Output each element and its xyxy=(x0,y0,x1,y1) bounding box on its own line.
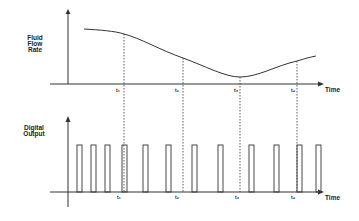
pulse xyxy=(91,145,96,192)
pulse xyxy=(274,145,279,192)
bottom-marker-t1: t₁ xyxy=(117,194,121,200)
top-marker-t2: t₂ xyxy=(175,87,179,93)
top-marker-t1: t₁ xyxy=(116,87,120,93)
bottom-y-axis-arrow-icon xyxy=(66,116,71,122)
top-y-axis-arrow-icon xyxy=(66,9,71,14)
top-panel: Fluid Flow Rate Time t₁ t₂ t₃ t₄ xyxy=(27,9,340,93)
time-marker-lines xyxy=(124,34,297,192)
pulse xyxy=(77,145,82,192)
pulse xyxy=(122,145,127,192)
bottom-panel: Digital Output Time t₁ t₂ t₃ t₄ xyxy=(23,116,340,207)
bottom-marker-t2: t₂ xyxy=(175,194,179,200)
pulse xyxy=(166,145,171,192)
top-y-label-line-3: Rate xyxy=(28,46,42,53)
bottom-marker-t3: t₃ xyxy=(235,194,240,200)
flow-rate-curve xyxy=(84,29,316,77)
flow-vs-digital-output-diagram: Fluid Flow Rate Time t₁ t₂ t₃ t₄ xyxy=(0,0,359,221)
top-x-axis-arrow-icon xyxy=(318,82,324,87)
pulse xyxy=(192,145,197,192)
pulse xyxy=(249,145,254,192)
top-marker-t4: t₄ xyxy=(291,87,296,93)
pulse xyxy=(316,145,321,192)
pulse xyxy=(218,145,223,192)
bottom-marker-t4: t₄ xyxy=(291,194,296,200)
top-marker-t3: t₃ xyxy=(234,87,239,93)
bottom-x-label: Time xyxy=(325,194,340,201)
pulse xyxy=(297,145,302,192)
digital-pulses xyxy=(77,145,321,192)
bottom-y-label-line-2: Output xyxy=(23,130,45,138)
pulse xyxy=(105,145,110,192)
top-x-label: Time xyxy=(325,86,340,93)
pulse xyxy=(143,145,148,192)
